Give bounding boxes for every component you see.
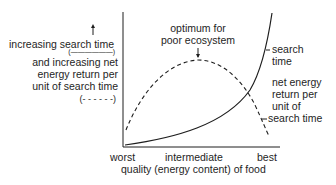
up-arrow-icon <box>91 24 95 28</box>
x-tick-intermediate: intermediate <box>165 151 223 163</box>
x-tick-worst: worst <box>110 151 135 163</box>
x-tick-best: best <box>257 151 277 163</box>
y-axis-label-line4: unit of search time <box>32 80 118 92</box>
optimum-label-line2: poor ecosystem <box>153 34 243 46</box>
optimum-label-line1: optimum for <box>158 22 238 34</box>
net-energy-curve <box>126 60 269 136</box>
dashed-line-legend: (- - - - - -) <box>80 93 116 105</box>
optimum-arrow-icon <box>196 54 200 58</box>
search-time-label-line2: time <box>272 55 292 67</box>
net-energy-label-line2: return per <box>272 88 318 100</box>
net-energy-label-line3: unit of <box>272 100 301 112</box>
net-energy-label-line1: net energy <box>272 76 322 88</box>
y-axis-label-line3: energy return per <box>37 68 118 80</box>
y-axis-label-line2: and increasing net <box>32 56 118 68</box>
search-time-label-line1: search <box>272 43 304 55</box>
x-axis-title: quality (energy content) of food <box>121 163 266 175</box>
net-energy-label-line4: search time <box>268 112 322 124</box>
solid-line-legend: (——————) <box>68 48 115 55</box>
